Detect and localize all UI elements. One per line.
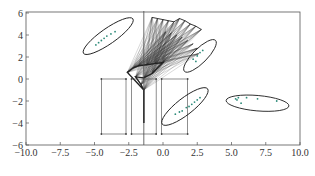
data-point	[199, 52, 201, 54]
data-point	[100, 40, 102, 42]
y-tick-label: −2	[12, 96, 23, 107]
x-tick-label: −5.0	[85, 147, 103, 158]
x-tick-label: 2.5	[191, 147, 204, 158]
data-point	[106, 35, 108, 37]
cluster-ellipse	[225, 93, 289, 114]
cluster-ellipse	[157, 82, 213, 130]
scatter-chart: −10.0−7.5−5.0−2.50.02.55.07.510.0 6420−2…	[0, 0, 315, 176]
box-corner-marker	[155, 133, 157, 135]
y-tick-label: 4	[18, 30, 23, 41]
box-corner-marker	[155, 78, 157, 80]
data-point	[174, 113, 176, 115]
box-corner-marker	[131, 78, 133, 80]
box-corner-marker	[125, 133, 127, 135]
data-point	[196, 55, 198, 57]
x-tick-label: 10.0	[291, 147, 309, 158]
x-tick-label: 7.5	[260, 147, 273, 158]
cluster-upper-left	[79, 13, 137, 60]
data-point	[192, 58, 194, 60]
data-point	[276, 100, 278, 102]
data-point	[114, 31, 116, 33]
box-corner-marker	[125, 78, 127, 80]
box-corner-marker	[187, 133, 189, 135]
data-point	[181, 110, 183, 112]
box-corner-marker	[100, 78, 102, 80]
y-axis: 6420−2−4−6	[12, 8, 29, 151]
cluster-right	[225, 93, 289, 114]
box-corner-marker	[100, 133, 102, 135]
x-tick-label: −2.5	[120, 147, 138, 158]
data-point	[199, 97, 201, 99]
box-corner-marker	[187, 78, 189, 80]
box-corner-marker	[161, 78, 163, 80]
data-point	[246, 97, 248, 99]
data-point	[237, 97, 239, 99]
x-tick-label: 5.0	[225, 147, 238, 158]
data-point	[202, 50, 204, 52]
x-tick-label: −7.5	[51, 147, 69, 158]
box-corner-marker	[161, 133, 163, 135]
data-point	[98, 42, 100, 44]
y-tick-label: 2	[18, 52, 23, 63]
cluster-lower-middle	[157, 82, 213, 130]
y-tick-label: −4	[12, 118, 23, 129]
data-point	[103, 37, 105, 39]
y-tick-label: −6	[12, 140, 23, 151]
data-point	[194, 101, 196, 103]
data-point	[95, 44, 97, 46]
data-point	[110, 33, 112, 35]
x-axis: −10.0−7.5−5.0−2.50.02.55.07.510.0	[14, 142, 308, 158]
data-point	[196, 99, 198, 101]
data-point	[188, 106, 190, 108]
x-tick-label: 0.0	[157, 147, 170, 158]
clusters	[79, 13, 289, 131]
box-corner-marker	[131, 133, 133, 135]
data-point	[236, 99, 238, 101]
box-outline	[101, 79, 126, 134]
data-point	[191, 103, 193, 105]
y-tick-label: 6	[18, 8, 23, 19]
y-tick-label: 0	[18, 74, 23, 85]
data-point	[185, 107, 187, 109]
data-point	[179, 111, 181, 113]
cluster-ellipse	[79, 13, 137, 60]
data-point	[195, 61, 197, 63]
fan-lines	[127, 17, 201, 123]
data-point	[257, 98, 259, 100]
data-point	[240, 102, 242, 104]
